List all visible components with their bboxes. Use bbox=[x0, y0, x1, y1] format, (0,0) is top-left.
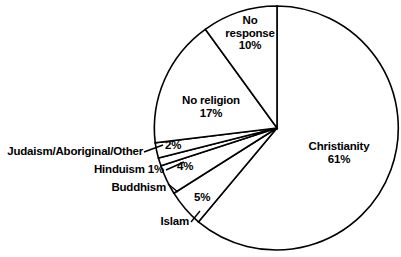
slice-label-no-response-line2: response bbox=[225, 27, 275, 39]
slice-value-islam: 5% bbox=[194, 191, 210, 204]
slice-value-no-religion: 17% bbox=[160, 107, 262, 120]
slice-label-christianity-name: Christianity bbox=[309, 140, 370, 152]
slice-label-no-response: No response 10% bbox=[207, 14, 293, 52]
slice-label-no-religion-name: No religion bbox=[182, 94, 240, 106]
slice-label-buddhism: Buddhism bbox=[50, 181, 166, 194]
slice-label-no-response-line1: No bbox=[243, 14, 258, 26]
slice-label-judaism-aboriginal-other: Judaism/Aboriginal/Other bbox=[6, 145, 143, 158]
slice-label-christianity: Christianity 61% bbox=[296, 140, 382, 165]
slice-value-christianity: 61% bbox=[296, 153, 382, 166]
slice-value-judaism-aboriginal-other: 2% bbox=[165, 139, 181, 152]
slice-label-hinduism: Hinduism 1% bbox=[30, 163, 164, 176]
pie-chart-figure: No response 10% No religion 17% Christia… bbox=[0, 0, 401, 257]
slice-label-no-religion: No religion 17% bbox=[160, 94, 262, 119]
slice-value-buddhism: 4% bbox=[177, 160, 193, 173]
slice-label-islam: Islam bbox=[110, 215, 189, 228]
pie-chart-svg bbox=[0, 0, 401, 257]
slice-value-no-response: 10% bbox=[207, 39, 293, 52]
